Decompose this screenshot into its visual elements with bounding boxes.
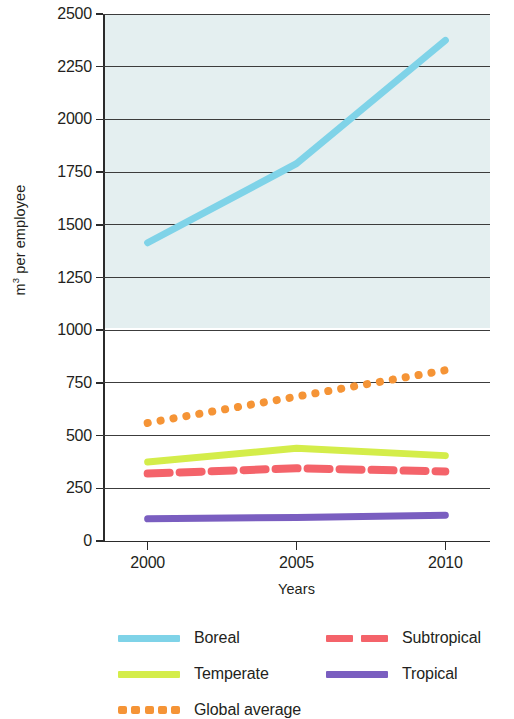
y-tick-mark bbox=[96, 382, 103, 384]
series-line-subtropical bbox=[148, 468, 446, 473]
x-tick-mark bbox=[445, 541, 447, 550]
line-swatch-icon bbox=[118, 671, 180, 678]
legend-item-temperate[interactable]: Temperate bbox=[118, 662, 269, 686]
y-tick-label: 2000 bbox=[0, 110, 92, 128]
x-tick-label: 2010 bbox=[428, 554, 463, 572]
x-axis-tick-labels: 200020052010 bbox=[103, 554, 490, 578]
legend-label: Global average bbox=[194, 701, 301, 719]
x-tick-label: 2000 bbox=[130, 554, 165, 572]
series-line-temperate bbox=[148, 448, 446, 462]
y-tick-mark bbox=[96, 119, 103, 121]
series-line-global-average bbox=[148, 370, 446, 423]
x-tick-mark bbox=[147, 541, 149, 550]
chart-figure: m3 per employee 025050075010001250150017… bbox=[0, 0, 514, 719]
y-tick-mark bbox=[96, 540, 103, 542]
y-axis-tick-labels: 02505007501000125015001750200022502500 bbox=[0, 0, 92, 560]
y-tick-label: 1750 bbox=[0, 163, 92, 181]
legend-label: Boreal bbox=[194, 629, 240, 647]
x-axis-title: Years bbox=[103, 581, 490, 597]
y-tick-mark bbox=[96, 435, 103, 437]
y-tick-mark bbox=[96, 329, 103, 331]
dashed-line-swatch-icon bbox=[326, 635, 388, 642]
y-tick-label: 0 bbox=[0, 532, 92, 550]
y-tick-label: 1500 bbox=[0, 216, 92, 234]
legend-item-boreal[interactable]: Boreal bbox=[118, 626, 240, 650]
y-tick-mark bbox=[96, 66, 103, 68]
legend-item-global-average[interactable]: Global average bbox=[118, 698, 301, 719]
dotted-line-swatch-icon bbox=[118, 707, 180, 714]
y-tick-label: 500 bbox=[0, 427, 92, 445]
y-tick-label: 1000 bbox=[0, 321, 92, 339]
y-tick-mark bbox=[96, 171, 103, 173]
legend-label: Temperate bbox=[194, 665, 269, 683]
series-line-tropical bbox=[148, 515, 446, 519]
series-lines-group bbox=[103, 14, 490, 541]
line-swatch-icon bbox=[326, 671, 388, 678]
line-swatch-icon bbox=[118, 635, 180, 642]
series-line-boreal bbox=[148, 40, 446, 242]
y-tick-mark bbox=[96, 488, 103, 490]
y-tick-label: 250 bbox=[0, 479, 92, 497]
y-tick-mark bbox=[96, 224, 103, 226]
legend-item-tropical[interactable]: Tropical bbox=[326, 662, 458, 686]
plot-wrapper: m3 per employee 025050075010001250150017… bbox=[0, 0, 514, 600]
x-tick-label: 2005 bbox=[279, 554, 314, 572]
plot-area bbox=[103, 14, 490, 541]
legend-label: Tropical bbox=[402, 665, 458, 683]
legend-item-subtropical[interactable]: Subtropical bbox=[326, 626, 481, 650]
x-tick-mark bbox=[296, 541, 298, 550]
y-tick-mark bbox=[96, 277, 103, 279]
chart-legend: BorealSubtropicalTemperateTropicalGlobal… bbox=[0, 622, 514, 719]
legend-label: Subtropical bbox=[402, 629, 481, 647]
y-tick-label: 2250 bbox=[0, 58, 92, 76]
y-tick-label: 2500 bbox=[0, 5, 92, 23]
y-tick-mark bbox=[96, 13, 103, 15]
y-tick-label: 750 bbox=[0, 374, 92, 392]
y-tick-label: 1250 bbox=[0, 269, 92, 287]
